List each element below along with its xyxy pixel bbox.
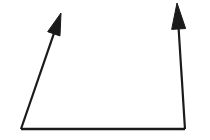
vector-diagram: [0, 0, 210, 140]
figure-canvas: [0, 0, 210, 140]
